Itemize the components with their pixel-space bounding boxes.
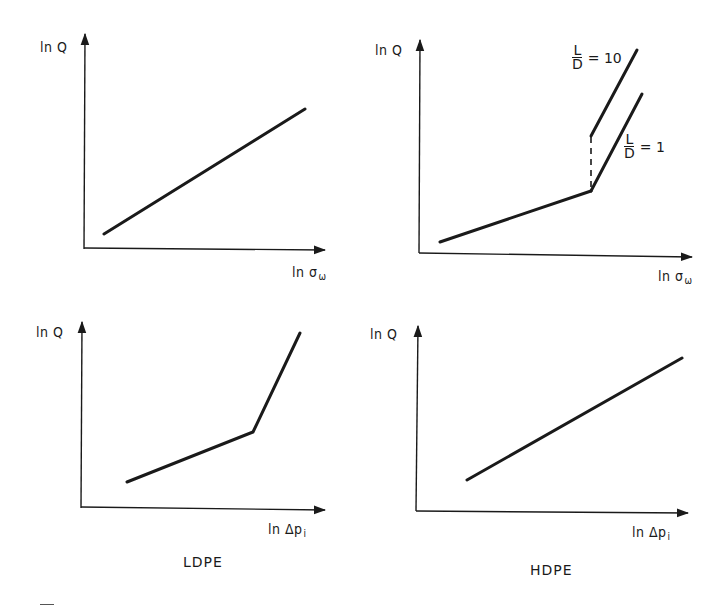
curve-line bbox=[104, 109, 305, 234]
curve-line bbox=[127, 333, 300, 482]
panel-title-hdpe: HDPE bbox=[530, 562, 573, 578]
y-axis bbox=[419, 40, 420, 253]
x-axis-label-sub: ω bbox=[318, 271, 326, 282]
x-axis-label-sub: ω bbox=[684, 275, 692, 286]
y-axis bbox=[416, 326, 418, 511]
y-axis-label: ln Q bbox=[36, 324, 63, 340]
x-axis-label-main: ln σ bbox=[292, 264, 317, 280]
x-axis bbox=[81, 507, 325, 510]
x-axis-label: ln Δpi bbox=[268, 521, 307, 539]
x-axis-label-sub: i bbox=[668, 531, 671, 542]
base-segment bbox=[440, 191, 591, 242]
y-axis bbox=[84, 34, 85, 249]
y-axis-label: ln Q bbox=[40, 39, 67, 55]
fraction-denominator: D bbox=[572, 58, 583, 71]
fraction-value: = 1 bbox=[640, 139, 665, 155]
x-axis-label: ln Δpi bbox=[632, 524, 671, 542]
y-axis-label: ln Q bbox=[370, 326, 397, 342]
x-axis bbox=[84, 248, 325, 250]
panel-title-ldpe: LDPE bbox=[183, 554, 223, 570]
x-axis-label-main: ln Δp bbox=[268, 521, 303, 537]
x-axis bbox=[419, 253, 692, 257]
panel-bottom-right bbox=[416, 326, 688, 513]
x-axis-label: ln σω bbox=[292, 264, 327, 282]
x-axis-label: ln σω bbox=[658, 268, 693, 286]
x-axis-label-sub: i bbox=[304, 528, 307, 539]
curve-line bbox=[467, 358, 682, 480]
y-axis bbox=[81, 322, 82, 508]
caption-cutoff bbox=[0, 596, 724, 605]
panel-bottom-left bbox=[81, 322, 325, 510]
figure-canvas bbox=[0, 0, 724, 605]
ld-1-label: LD = 1 bbox=[624, 133, 665, 160]
x-axis bbox=[416, 511, 688, 513]
x-axis-label-main: ln Δp bbox=[632, 524, 667, 540]
y-axis-label: ln Q bbox=[375, 42, 402, 58]
fraction-value: = 10 bbox=[588, 50, 622, 66]
panel-top-left bbox=[84, 34, 325, 250]
ld-10-label: LD = 10 bbox=[572, 44, 622, 71]
fraction-denominator: D bbox=[624, 147, 635, 160]
x-axis-label-main: ln σ bbox=[658, 268, 683, 284]
